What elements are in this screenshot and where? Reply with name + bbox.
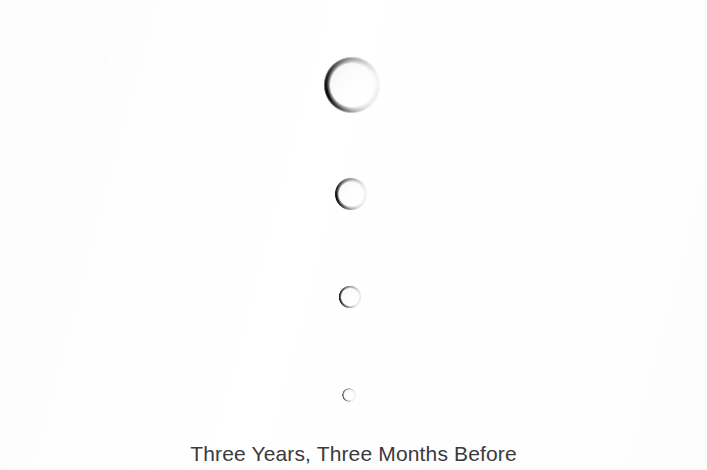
droplet-3 xyxy=(339,286,362,309)
droplet-highlight xyxy=(342,388,356,402)
artwork-canvas: Three Years, Three Months Before xyxy=(0,0,707,470)
droplet-2 xyxy=(335,178,368,211)
droplet-highlight xyxy=(339,286,362,309)
droplet-1-largest xyxy=(324,57,381,114)
droplet-highlight xyxy=(335,178,368,211)
droplet-4-smallest xyxy=(342,388,356,402)
droplet-stack xyxy=(0,0,707,470)
artwork-caption: Three Years, Three Months Before xyxy=(0,442,707,466)
droplet-highlight xyxy=(324,57,381,114)
